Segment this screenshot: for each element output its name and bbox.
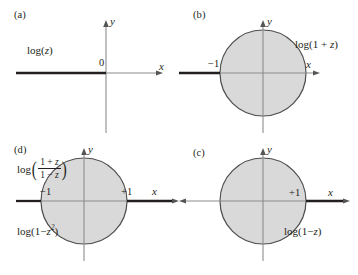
y-axis-label: y: [267, 15, 272, 27]
open-paren: (: [32, 159, 37, 179]
log-text: log: [17, 163, 31, 175]
panel-b: (b) log(1 + z) −1 x y: [179, 0, 358, 137]
function-label-log-1-minus-z: log(1−z): [284, 225, 321, 237]
panel-c: (c) log(1−z) +1 x y: [179, 138, 358, 275]
figure-branch-cuts: (a) log(z) 0 x y (b) log(1 + z) −1 x y: [0, 0, 358, 275]
y-axis-label: y: [110, 15, 115, 27]
fraction-denominator: 1 − z: [38, 168, 61, 180]
function-label-log-ratio: log(1 + z1 − z): [17, 157, 68, 181]
fraction: 1 + z1 − z: [38, 157, 61, 181]
panel-a-diagram: [0, 0, 179, 137]
origin-label-zero: 0: [99, 57, 104, 68]
x-axis-arrowhead: [172, 198, 179, 203]
y-axis-arrowhead: [260, 20, 266, 27]
x-axis-arrowhead: [343, 198, 350, 203]
function-label-log-z: log(z): [27, 44, 53, 56]
function-label-log-1-minus-z-squared: log(1−z2): [17, 224, 58, 237]
function-label-log-1-plus-z: log(1 + z): [295, 38, 338, 50]
y-axis-arrowhead: [103, 20, 109, 27]
panel-letter-a: (a): [14, 9, 26, 20]
y-axis-arrowhead: [81, 148, 87, 155]
tick-label-plus-one: +1: [121, 186, 132, 197]
close-paren: ): [62, 159, 67, 179]
x-axis-label: x: [306, 58, 311, 70]
tick-label-minus-one: −1: [208, 58, 219, 69]
y-axis-arrowhead: [260, 148, 266, 155]
y-axis-label: y: [88, 143, 93, 155]
panel-d: (d) log(1 + z1 − z) log(1−z2) −1 +1 x y: [0, 138, 179, 275]
panel-letter-b: (b): [193, 9, 206, 20]
x-axis-arrowhead: [313, 70, 320, 75]
x-axis-arrowhead-left: [179, 198, 186, 203]
panel-c-diagram: [179, 138, 358, 275]
fraction-group: (1 + z1 − z): [31, 157, 68, 181]
panel-letter-d: (d): [14, 144, 27, 155]
tick-label-plus-one: +1: [289, 187, 300, 198]
panel-letter-c: (c): [193, 147, 205, 158]
y-axis-label: y: [267, 143, 272, 155]
panel-a: (a) log(z) 0 x y: [0, 0, 179, 137]
x-axis-label: x: [328, 186, 333, 198]
x-axis-label: x: [152, 185, 157, 197]
fraction-numerator: 1 + z: [38, 157, 61, 168]
x-axis-label: x: [159, 60, 164, 72]
tick-label-minus-one: −1: [40, 186, 51, 197]
